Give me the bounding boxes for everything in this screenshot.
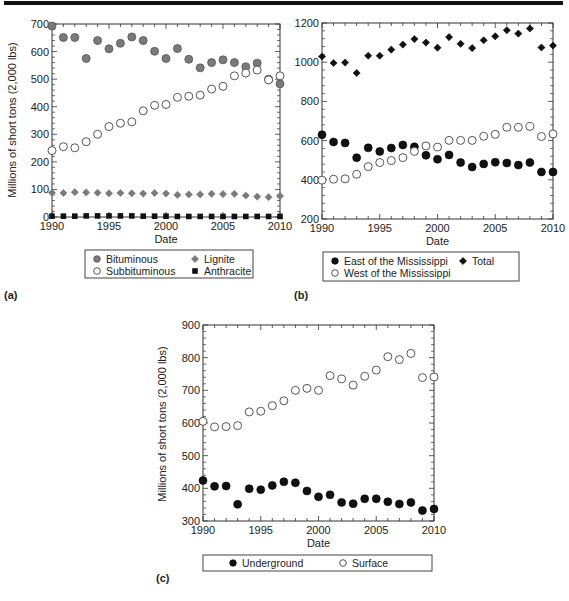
x-tick-label: 2010 xyxy=(541,222,565,234)
y-tick-label: 1200 xyxy=(295,17,319,29)
data-point xyxy=(491,130,499,138)
data-point xyxy=(71,34,79,42)
data-point xyxy=(422,142,430,150)
data-point xyxy=(196,64,204,72)
data-point xyxy=(549,42,556,49)
legend: BituminousSubbituminousLigniteAnthracite xyxy=(85,250,253,278)
data-point xyxy=(418,507,426,515)
data-point xyxy=(303,384,311,392)
y-tick-label: 500 xyxy=(31,73,49,85)
data-point xyxy=(151,47,159,55)
data-point xyxy=(353,154,361,162)
data-point xyxy=(71,144,79,152)
data-point xyxy=(361,372,369,380)
data-point xyxy=(48,147,56,155)
data-point xyxy=(230,59,238,67)
data-point xyxy=(268,481,276,489)
data-point xyxy=(457,159,465,167)
data-point xyxy=(257,486,265,494)
data-point xyxy=(480,132,488,140)
legend-marker xyxy=(332,258,339,265)
data-point xyxy=(399,141,407,149)
data-point xyxy=(95,213,101,219)
x-tick-label: 2005 xyxy=(364,524,388,536)
x-tick-label: 2000 xyxy=(425,222,449,234)
data-point xyxy=(338,375,346,383)
legend-label: Underground xyxy=(242,557,303,569)
data-point xyxy=(326,491,334,499)
series-underground xyxy=(199,476,438,514)
y-axis-title: Millions of short tons (2,000 lbs) xyxy=(156,346,168,501)
data-point xyxy=(318,176,326,184)
data-point xyxy=(245,408,253,416)
y-tick-label: 700 xyxy=(31,18,49,30)
data-point xyxy=(116,39,124,47)
legend-label: East of the Mississippi xyxy=(344,255,448,267)
data-point xyxy=(257,407,265,415)
data-point xyxy=(222,423,230,431)
data-point xyxy=(384,353,392,361)
data-point xyxy=(365,52,372,59)
data-point xyxy=(280,478,288,486)
data-point xyxy=(197,214,203,220)
data-point xyxy=(445,136,453,144)
data-point xyxy=(59,143,67,151)
x-tick-label: 1995 xyxy=(368,222,392,234)
y-tick-label: 1000 xyxy=(295,56,319,68)
x-tick-label: 2000 xyxy=(154,220,178,232)
data-point xyxy=(291,386,299,394)
data-point xyxy=(173,45,181,53)
panel-label: (b) xyxy=(294,289,308,301)
legend-box xyxy=(203,555,432,571)
data-point xyxy=(364,163,372,171)
data-point xyxy=(151,101,159,109)
data-point xyxy=(361,495,369,503)
data-point xyxy=(219,82,227,90)
y-tick-label: 400 xyxy=(182,482,200,494)
data-point xyxy=(330,138,338,146)
x-tick-label: 2005 xyxy=(211,220,235,232)
legend: East of the MississippiWest of the Missi… xyxy=(323,252,519,281)
panel-label: (c) xyxy=(156,572,170,584)
data-point xyxy=(549,168,557,176)
series-subbituminous xyxy=(48,66,284,155)
data-point xyxy=(208,85,216,93)
data-point xyxy=(491,158,499,166)
data-point xyxy=(387,157,395,165)
data-point xyxy=(129,213,135,219)
y-tick-label: 200 xyxy=(301,213,319,225)
y-tick-label: 600 xyxy=(301,135,319,147)
data-point xyxy=(303,487,311,495)
data-point xyxy=(61,213,67,219)
y-axis-title: Millions of short tons (2,000 lbs) xyxy=(6,42,18,197)
data-point xyxy=(376,159,384,167)
y-tick-label: 600 xyxy=(31,46,49,58)
legend-marker xyxy=(94,256,101,263)
data-point xyxy=(174,191,181,198)
data-point xyxy=(434,155,442,163)
x-tick-label: 1995 xyxy=(97,220,121,232)
data-point xyxy=(341,139,349,147)
data-point xyxy=(315,493,323,501)
data-point xyxy=(480,37,487,44)
data-point xyxy=(254,193,261,200)
data-point xyxy=(526,122,534,130)
data-point xyxy=(219,191,226,198)
series-bituminous xyxy=(48,22,284,88)
y-tick-label: 600 xyxy=(182,417,200,429)
data-point xyxy=(353,69,360,76)
data-point xyxy=(342,59,349,66)
data-point xyxy=(199,476,207,484)
legend: UndergroundSurface xyxy=(203,555,432,571)
data-point xyxy=(430,505,438,513)
data-point xyxy=(514,161,522,169)
figure-canvas: 1990199520002005201001002003004005006007… xyxy=(0,0,569,601)
data-point xyxy=(349,500,357,508)
data-point xyxy=(445,34,452,41)
data-point xyxy=(434,143,442,151)
data-point xyxy=(503,159,511,167)
data-point xyxy=(254,214,260,220)
data-point xyxy=(395,500,403,508)
data-point xyxy=(434,44,441,51)
data-point xyxy=(387,144,395,152)
